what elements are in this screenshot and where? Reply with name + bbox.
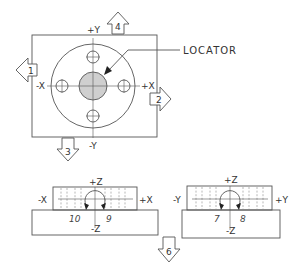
axis-label-neg-z: -Z <box>226 226 235 236</box>
view-arrow-3: 3 <box>57 138 79 161</box>
svg-text:1: 1 <box>28 66 34 76</box>
top-view: LOCATOR +Y -Y -X +X 1 2 3 4 <box>16 12 237 161</box>
axis-label-pos-y: +Y <box>275 195 289 205</box>
arrow-left-icon <box>16 58 37 82</box>
rotation-label-8: 8 <box>240 214 246 224</box>
rotation-arrowhead-cw-icon <box>236 203 241 210</box>
axis-label-neg-y: -Y <box>173 195 181 205</box>
svg-text:4: 4 <box>115 22 121 32</box>
axis-label-pos-y: +Y <box>87 25 101 35</box>
svg-text:2: 2 <box>156 95 162 105</box>
svg-text:3: 3 <box>65 147 71 157</box>
axis-label-neg-y: -Y <box>89 141 97 151</box>
fixture-block-y <box>187 186 272 210</box>
front-view-y: +Z -Z -Y +Y 7 8 <box>173 175 289 238</box>
axis-label-pos-x: +X <box>141 81 155 91</box>
front-view-x: +Z -Z -X +X 10 9 <box>32 177 158 235</box>
rotation-label-9: 9 <box>106 214 112 224</box>
axis-label-pos-x: +X <box>139 195 153 205</box>
svg-text:6: 6 <box>166 247 172 257</box>
axis-label-pos-z: +Z <box>224 175 238 185</box>
view-arrow-1: 1 <box>16 58 37 82</box>
locator-callout: LOCATOR <box>183 45 237 56</box>
axis-label-neg-z: -Z <box>91 224 100 234</box>
locator-orientation-diagram: LOCATOR +Y -Y -X +X 1 2 3 4 <box>0 0 302 270</box>
rotation-label-7: 7 <box>214 214 220 224</box>
view-arrow-6: 6 <box>158 237 180 262</box>
axis-label-neg-x: -X <box>38 195 47 205</box>
axis-label-neg-x: -X <box>36 81 45 91</box>
axis-label-pos-z: +Z <box>89 177 103 187</box>
rotation-label-10: 10 <box>69 214 81 224</box>
view-arrow-4: 4 <box>107 12 129 34</box>
rotation-arrowhead-ccw-icon <box>84 203 89 210</box>
rotation-arrowhead-ccw-icon <box>219 203 224 210</box>
leader-arrowhead-icon <box>104 66 112 75</box>
